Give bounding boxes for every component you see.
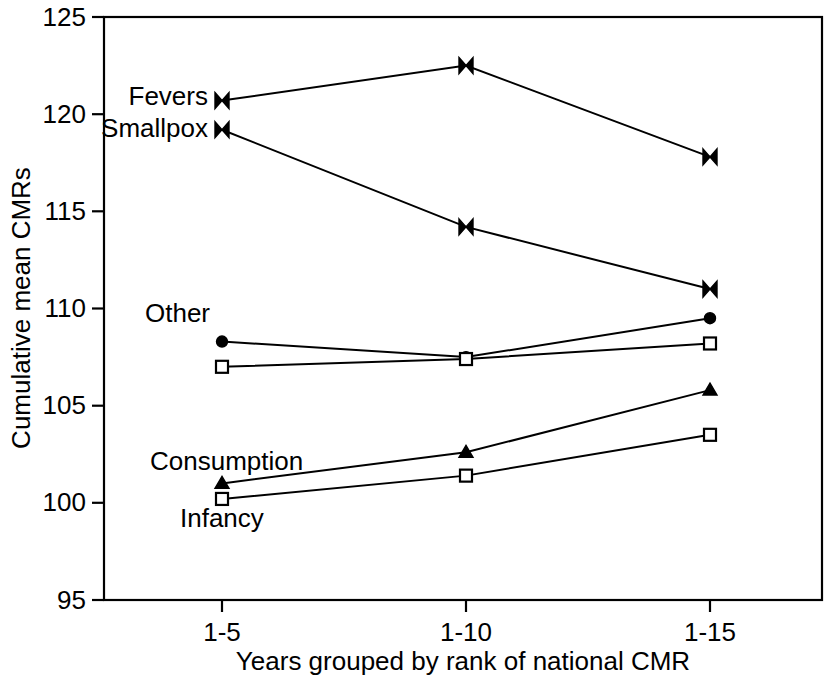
data-point-bowtie-marker (459, 58, 473, 74)
series-label-smallpox: Smallpox (101, 113, 208, 143)
y-tick-label: 110 (45, 293, 86, 323)
data-point-bowtie-marker (215, 93, 229, 109)
y-tick-label: 105 (43, 390, 86, 420)
data-point-triangle-marker (703, 383, 717, 395)
y-tick-label: 100 (43, 487, 86, 517)
y-axis-title: Cumulative mean CMRs (6, 167, 36, 449)
chart-figure: 125 120 115 110 105 100 95 1-5 1-10 1-15… (0, 0, 837, 675)
data-point-bowtie-marker (703, 149, 717, 165)
data-series (216, 337, 716, 372)
data-point-circle-marker (217, 336, 228, 347)
series-layer (215, 58, 717, 505)
line-chart: 125 120 115 110 105 100 95 1-5 1-10 1-15… (0, 0, 837, 675)
x-tick-label: 1-5 (203, 617, 241, 647)
data-point-square-marker (460, 353, 472, 365)
data-point-square-marker (704, 429, 716, 441)
series-line (222, 130, 710, 289)
x-tick-label: 1-10 (440, 617, 492, 647)
y-axis-tick-labels: 125 120 115 110 105 100 95 (43, 2, 86, 615)
data-point-circle-marker (705, 313, 716, 324)
y-tick-label: 115 (45, 196, 86, 226)
series-label-infancy: Infancy (180, 503, 264, 533)
data-point-square-marker (216, 361, 228, 373)
x-axis-ticks (222, 600, 710, 612)
series-annotations: Fevers Smallpox Other Consumption Infanc… (101, 81, 303, 533)
y-tick-label: 95 (57, 585, 86, 615)
x-axis-title: Years grouped by rank of national CMR (236, 646, 690, 675)
series-label-other: Other (145, 298, 210, 328)
data-point-bowtie-marker (703, 281, 717, 297)
data-point-square-marker (704, 337, 716, 349)
data-series (215, 58, 717, 165)
x-tick-label: 1-15 (684, 617, 736, 647)
x-axis-tick-labels: 1-5 1-10 1-15 (203, 617, 736, 647)
series-label-fevers: Fevers (129, 81, 208, 111)
data-series (215, 122, 717, 297)
series-line (222, 66, 710, 157)
y-tick-label: 125 (43, 2, 86, 32)
series-label-consumption: Consumption (150, 446, 303, 476)
y-axis-ticks (92, 17, 104, 600)
data-point-bowtie-marker (459, 219, 473, 235)
y-tick-label: 120 (43, 99, 86, 129)
data-point-square-marker (460, 470, 472, 482)
data-point-bowtie-marker (215, 122, 229, 138)
